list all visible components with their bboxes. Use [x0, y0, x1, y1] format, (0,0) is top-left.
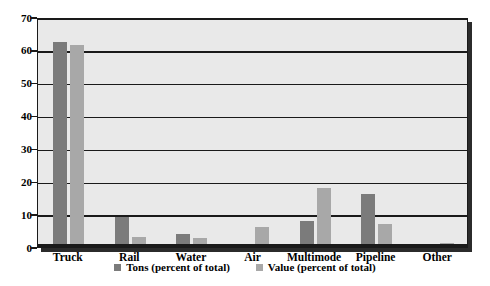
gridline [38, 150, 467, 152]
bar-rail-tons [115, 217, 129, 247]
gridline [38, 18, 467, 20]
plot-area [37, 18, 468, 248]
legend-entry-tons: Tons (percent of total) [114, 262, 230, 273]
y-axis-tick-label: 60 [2, 45, 32, 56]
bar-truck-tons [53, 42, 67, 247]
x-axis-baseline [37, 244, 468, 248]
value-swatch [256, 264, 263, 271]
gridline [38, 117, 467, 119]
gridline [38, 183, 467, 185]
gridline [38, 51, 467, 53]
y-axis-tick-label: 70 [2, 13, 32, 24]
y-axis-tick-label: 0 [2, 243, 32, 254]
y-axis-tick-label: 50 [2, 78, 32, 89]
plot-frame-shadow-right [468, 22, 472, 252]
tons-swatch [114, 264, 121, 271]
y-axis-tick-label: 20 [2, 177, 32, 188]
legend-label: Tons (percent of total) [126, 262, 230, 273]
bar-pipeline-tons [361, 194, 375, 247]
gridline [38, 215, 467, 217]
y-axis-tick-label: 30 [2, 144, 32, 155]
bar-multimode-value [317, 188, 331, 247]
legend-entry-value: Value (percent of total) [256, 262, 376, 273]
bar-truck-value [70, 45, 84, 247]
y-axis-tick-label: 40 [2, 111, 32, 122]
y-axis-tick-label: 10 [2, 210, 32, 221]
legend-label: Value (percent of total) [268, 262, 376, 273]
bar-chart-figure: 010203040506070 TruckRailWaterAirMultimo… [0, 0, 490, 286]
gridline [38, 84, 467, 86]
chart-legend: Tons (percent of total)Value (percent of… [0, 262, 490, 273]
